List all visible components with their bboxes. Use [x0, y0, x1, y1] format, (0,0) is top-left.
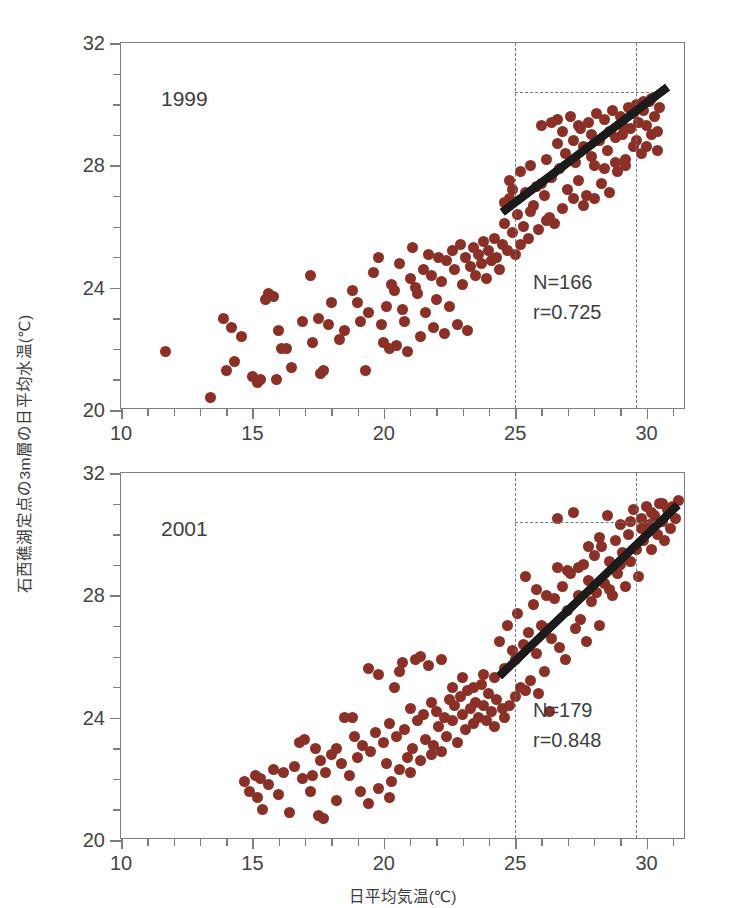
data-point — [273, 789, 284, 800]
data-point — [602, 145, 613, 156]
x-axis-minor-tick — [200, 408, 201, 416]
data-point — [507, 227, 518, 238]
data-point — [273, 325, 284, 336]
y-axis-minor-tick — [113, 349, 121, 350]
data-point — [384, 792, 395, 803]
x-axis-minor-tick — [568, 408, 569, 416]
data-point — [405, 767, 416, 778]
x-axis-minor-tick — [620, 408, 621, 416]
data-point — [478, 669, 489, 680]
x-axis-minor-tick — [331, 408, 332, 416]
data-point — [420, 307, 431, 318]
data-point — [512, 209, 523, 220]
data-point — [610, 535, 621, 546]
y-axis-tick-label: 24 — [83, 276, 105, 299]
data-point — [381, 301, 392, 312]
data-point — [402, 346, 413, 357]
data-point — [436, 276, 447, 287]
x-axis-tick-label: 25 — [504, 422, 526, 445]
y-axis-minor-tick — [113, 135, 121, 136]
data-point — [407, 242, 418, 253]
data-point — [604, 584, 615, 595]
data-point — [602, 510, 613, 521]
x-axis-major-tick — [384, 838, 386, 849]
y-axis-minor-tick — [113, 565, 121, 566]
x-axis-minor-tick — [200, 838, 201, 846]
data-point — [557, 203, 568, 214]
guide-line-horizontal — [515, 522, 654, 523]
data-point — [583, 117, 594, 128]
x-axis-minor-tick — [174, 408, 175, 416]
y-axis-minor-tick — [113, 227, 121, 228]
y-axis-minor-tick — [113, 687, 121, 688]
x-axis-minor-tick — [594, 408, 595, 416]
data-point — [541, 154, 552, 165]
data-point — [407, 743, 418, 754]
data-point — [399, 316, 410, 327]
data-point — [271, 374, 282, 385]
data-point — [286, 362, 297, 373]
data-point — [255, 374, 266, 385]
x-axis-minor-tick — [463, 838, 464, 846]
data-point — [252, 792, 263, 803]
data-point — [486, 706, 497, 717]
data-point — [418, 709, 429, 720]
data-point — [554, 642, 565, 653]
data-point — [520, 685, 531, 696]
data-point — [236, 331, 247, 342]
x-axis-major-tick — [515, 408, 517, 419]
x-axis-major-tick — [252, 838, 254, 849]
data-point — [391, 340, 402, 351]
data-point — [221, 365, 232, 376]
plot-frame-1999: 202428321015202530 1999 N=166 r=0.725 — [120, 42, 685, 409]
guide-line-horizontal — [515, 92, 654, 93]
y-axis-tick-label: 20 — [83, 829, 105, 852]
x-axis-tick-label: 15 — [241, 422, 263, 445]
stat-r-label-1999: r=0.725 — [533, 297, 601, 327]
data-point — [507, 184, 518, 195]
x-axis-tick-label: 20 — [373, 852, 395, 875]
data-point — [373, 783, 384, 794]
data-point — [581, 636, 592, 647]
data-point — [433, 721, 444, 732]
data-point — [468, 682, 479, 693]
data-point — [578, 200, 589, 211]
data-point — [525, 675, 536, 686]
data-point — [315, 755, 326, 766]
figure-root: 石西礁湖定点の3m層の日平均水温(℃) 202428321015202530 1… — [0, 0, 729, 908]
data-point — [560, 654, 571, 665]
data-point — [428, 322, 439, 333]
data-point — [397, 304, 408, 315]
data-point — [352, 752, 363, 763]
x-axis-tick-label: 30 — [635, 422, 657, 445]
data-point — [523, 627, 534, 638]
data-point — [568, 135, 579, 146]
y-axis-tick-label: 28 — [83, 154, 105, 177]
y-axis-major-tick — [110, 840, 121, 842]
data-point — [633, 571, 644, 582]
x-axis-minor-tick — [673, 408, 674, 416]
x-axis-minor-tick — [410, 838, 411, 846]
x-axis-major-tick — [384, 408, 386, 419]
guide-line-vertical — [636, 43, 637, 408]
data-point — [365, 746, 376, 757]
data-point — [444, 301, 455, 312]
data-point — [415, 755, 426, 766]
data-point — [278, 767, 289, 778]
panel-year-label-2001: 2001 — [161, 517, 208, 541]
data-point — [518, 221, 529, 232]
data-point — [476, 258, 487, 269]
data-point — [470, 270, 481, 281]
data-point — [363, 798, 374, 809]
y-axis-minor-tick — [113, 379, 121, 380]
data-point — [229, 356, 240, 367]
x-axis-minor-tick — [226, 408, 227, 416]
data-point — [331, 795, 342, 806]
x-axis-minor-tick — [489, 838, 490, 846]
data-point — [449, 264, 460, 275]
data-point — [575, 614, 586, 625]
data-point — [589, 160, 600, 171]
x-axis-tick-label: 20 — [373, 422, 395, 445]
x-axis-tick-label: 10 — [110, 422, 132, 445]
data-point — [589, 193, 600, 204]
